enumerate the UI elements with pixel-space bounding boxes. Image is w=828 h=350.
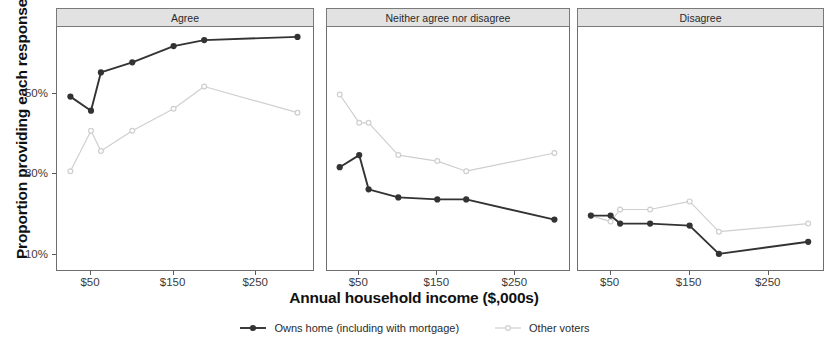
legend-item[interactable]: Other voters bbox=[493, 322, 590, 334]
x-tick-label: $250 bbox=[242, 276, 268, 288]
data-point bbox=[552, 151, 557, 156]
data-point bbox=[366, 120, 371, 125]
series-canvas bbox=[327, 27, 570, 271]
x-tick-label: $150 bbox=[160, 276, 186, 288]
x-tick-mark bbox=[610, 271, 611, 275]
data-point bbox=[99, 149, 104, 154]
x-tick-mark bbox=[358, 271, 359, 275]
data-point bbox=[435, 159, 440, 164]
data-point bbox=[805, 239, 811, 245]
facet-panel: Disagree$50$150$250 bbox=[577, 8, 824, 271]
data-point bbox=[687, 223, 693, 229]
data-point bbox=[89, 128, 94, 133]
y-tick-label: 10% bbox=[25, 248, 48, 260]
data-point bbox=[647, 221, 653, 227]
data-point bbox=[202, 84, 207, 89]
x-tick-label: $150 bbox=[423, 276, 449, 288]
series-line bbox=[340, 95, 555, 172]
data-point bbox=[608, 219, 613, 224]
facet-strip-label: Agree bbox=[56, 8, 314, 27]
data-point bbox=[357, 120, 362, 125]
y-tick-label: 50% bbox=[25, 87, 48, 99]
data-point bbox=[551, 217, 557, 223]
data-point bbox=[648, 207, 653, 212]
data-point bbox=[463, 196, 469, 202]
data-point bbox=[806, 221, 811, 226]
x-tick-label: $250 bbox=[755, 276, 781, 288]
data-point bbox=[366, 186, 372, 192]
data-point bbox=[717, 229, 722, 234]
x-tick-label: $150 bbox=[676, 276, 702, 288]
facet-panel: Neither agree nor disagree$50$150$250 bbox=[326, 8, 570, 271]
data-point bbox=[294, 34, 300, 40]
data-point bbox=[68, 169, 73, 174]
y-axis-title: Proportion providing each response bbox=[13, 0, 31, 269]
plot-area bbox=[56, 27, 314, 271]
legend-label: Other voters bbox=[529, 322, 590, 334]
x-tick-mark bbox=[436, 271, 437, 275]
x-axis-title: Annual household income ($,000s) bbox=[0, 289, 828, 307]
plot-area bbox=[326, 27, 570, 271]
legend-key-icon bbox=[493, 322, 523, 334]
data-point bbox=[687, 199, 692, 204]
data-point bbox=[618, 207, 623, 212]
data-point bbox=[98, 69, 104, 75]
chart-figure: Proportion providing each response Annua… bbox=[0, 0, 828, 350]
x-tick-label: $50 bbox=[80, 276, 99, 288]
x-tick-mark bbox=[768, 271, 769, 275]
data-point bbox=[337, 164, 343, 170]
data-point bbox=[88, 108, 94, 114]
data-point bbox=[295, 110, 300, 115]
y-tick-label: 30% bbox=[25, 167, 48, 179]
x-tick-label: $50 bbox=[600, 276, 619, 288]
series-canvas bbox=[578, 27, 824, 271]
data-point bbox=[129, 59, 135, 65]
data-point bbox=[130, 128, 135, 133]
data-point bbox=[337, 92, 342, 97]
series-line bbox=[70, 37, 297, 111]
data-point bbox=[608, 213, 614, 219]
legend-key-icon bbox=[238, 322, 268, 334]
x-tick-label: $250 bbox=[502, 276, 528, 288]
series-canvas bbox=[57, 27, 314, 271]
data-point bbox=[201, 37, 207, 43]
x-tick-mark bbox=[173, 271, 174, 275]
x-tick-mark bbox=[689, 271, 690, 275]
series-line bbox=[591, 216, 808, 254]
data-point bbox=[396, 153, 401, 158]
data-point bbox=[588, 213, 594, 219]
x-tick-mark bbox=[255, 271, 256, 275]
x-tick-mark bbox=[90, 271, 91, 275]
data-point bbox=[356, 152, 362, 158]
data-point bbox=[434, 196, 440, 202]
x-tick-label: $50 bbox=[349, 276, 368, 288]
facet-strip-label: Disagree bbox=[577, 8, 824, 27]
facet-panel: Agree$50$150$250 bbox=[56, 8, 314, 271]
legend-label: Owns home (including with mortgage) bbox=[274, 322, 459, 334]
data-point bbox=[395, 194, 401, 200]
chart-legend: Owns home (including with mortgage)Other… bbox=[0, 322, 828, 334]
legend-item[interactable]: Owns home (including with mortgage) bbox=[238, 322, 459, 334]
series-line bbox=[591, 201, 808, 231]
x-tick-mark bbox=[514, 271, 515, 275]
data-point bbox=[716, 251, 722, 257]
data-point bbox=[617, 221, 623, 227]
data-point bbox=[171, 43, 177, 49]
facet-strip-label: Neither agree nor disagree bbox=[326, 8, 570, 27]
plot-area bbox=[577, 27, 824, 271]
data-point bbox=[67, 94, 73, 100]
data-point bbox=[171, 106, 176, 111]
series-line bbox=[70, 87, 297, 172]
data-point bbox=[464, 169, 469, 174]
